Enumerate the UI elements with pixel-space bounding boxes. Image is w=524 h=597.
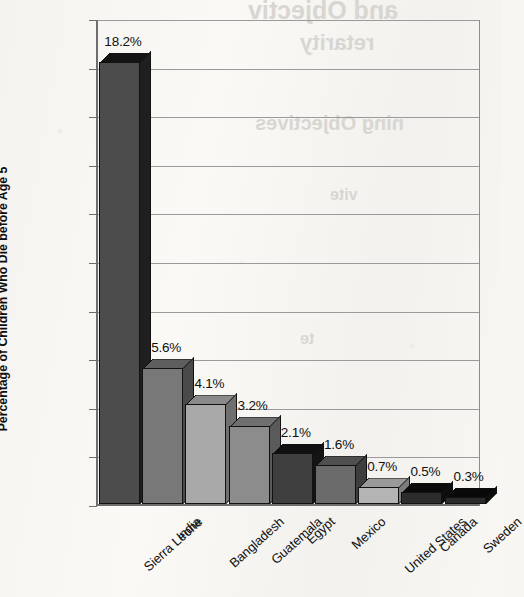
y-axis-tick	[89, 409, 97, 410]
y-axis-tick	[89, 457, 97, 458]
y-axis-tick	[89, 214, 97, 215]
y-axis-tick	[89, 263, 97, 264]
gridline	[98, 117, 479, 118]
bar-value-label: 18.2%	[91, 34, 155, 49]
bar	[445, 486, 486, 504]
gridline	[98, 69, 479, 70]
bar-front-face	[401, 492, 442, 504]
bar-front-face	[358, 487, 399, 504]
y-axis-tick	[89, 117, 97, 118]
y-axis-tick	[89, 166, 97, 167]
y-axis-tick	[89, 20, 97, 21]
bar	[358, 476, 399, 504]
gridline	[98, 312, 479, 313]
y-axis-tick	[89, 69, 97, 70]
bar-value-label: 4.1%	[177, 376, 241, 391]
y-axis-title: Percentage of Children Who Die before Ag…	[0, 64, 10, 534]
x-axis-category-label: Sweden	[480, 514, 524, 556]
bar-value-label: 1.6%	[307, 437, 371, 452]
gridline	[98, 166, 479, 167]
y-axis-tick	[89, 360, 97, 361]
x-axis-category-label: Mexico	[349, 514, 389, 552]
bar-front-face	[185, 404, 226, 504]
bar-front-face	[272, 453, 313, 504]
y-axis-tick	[89, 312, 97, 313]
bar-value-label: 5.6%	[134, 340, 198, 355]
y-axis-tick	[89, 506, 97, 507]
bar	[99, 51, 140, 504]
gridline	[98, 214, 479, 215]
bar-front-face	[445, 497, 486, 504]
bar-front-face	[99, 62, 140, 504]
bar-value-label: 0.3%	[437, 469, 501, 484]
bar	[401, 481, 442, 504]
gridline	[98, 263, 479, 264]
bar-value-label: 3.2%	[221, 398, 285, 413]
gridline	[98, 20, 479, 21]
